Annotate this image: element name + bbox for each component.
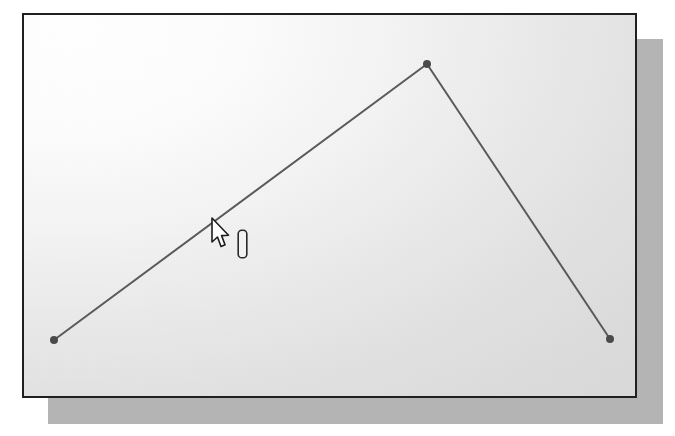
drawing-window[interactable] (22, 13, 637, 398)
vertex-marker-start[interactable] (50, 336, 58, 344)
vector-graphics-layer[interactable] (24, 15, 635, 396)
drawing-canvas[interactable] (24, 15, 635, 396)
vertex-marker-apex[interactable] (423, 60, 431, 68)
polyline-shape[interactable] (54, 64, 610, 340)
screen-root (0, 0, 675, 436)
vertex-marker-end[interactable] (606, 335, 614, 343)
